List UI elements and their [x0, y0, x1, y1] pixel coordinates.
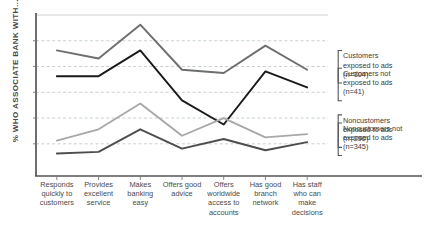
- legend-entry-text: exposed to ads: [343, 133, 424, 142]
- x-axis-label: Provides excellent service: [78, 180, 120, 230]
- axis-ticks: [33, 41, 307, 180]
- legend-bracket: [338, 123, 342, 156]
- legend-entry-text: (n=41): [343, 87, 424, 96]
- x-axis-category-labels: Responds quickly to customersProvides ex…: [36, 180, 328, 230]
- series-lines: [57, 25, 307, 154]
- legend-entry-text: exposed to ads: [343, 78, 424, 87]
- x-axis-label: Has staff who can make decisions: [286, 180, 328, 230]
- x-axis-label: Has good branch network: [245, 180, 287, 230]
- legend-entry-text: Customers not: [343, 69, 424, 78]
- x-axis-label: Offers worldwide access to accounts: [203, 180, 245, 230]
- legend-entry-text: Customers: [343, 51, 424, 60]
- series-line-1: [57, 50, 307, 124]
- legend-entry-text: Noncustomers not: [343, 124, 424, 133]
- legend-entry-text: (n=345): [343, 142, 424, 151]
- x-axis-label: Makes banking easy: [119, 180, 161, 230]
- series-line-0: [57, 25, 307, 73]
- x-axis-label: Responds quickly to customers: [36, 180, 78, 230]
- series-line-3: [57, 129, 307, 153]
- legend-bracket: [338, 50, 342, 82]
- x-axis-label: Offers good advice: [161, 180, 203, 230]
- legend-entry-3: Noncustomers notexposed to ads(n=345): [343, 124, 424, 151]
- legend-bracket: [338, 115, 342, 148]
- legend-bracket: [338, 68, 342, 101]
- series-line-2: [57, 104, 307, 141]
- chart-legend: Customersexposed to ads(n=104)Customers …: [336, 0, 424, 181]
- legend-entry-1: Customers notexposed to ads(n=41): [343, 69, 424, 96]
- line-chart: % WHO ASSOCIATE BANK WITH… Responds quic…: [0, 0, 424, 231]
